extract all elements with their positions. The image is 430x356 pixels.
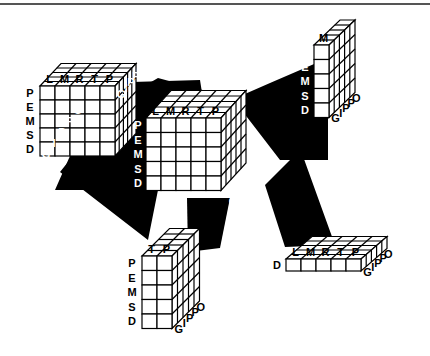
cube-main-cell (206, 147, 221, 162)
cube-top-left-cell (40, 114, 55, 128)
label-depth: O (384, 248, 393, 260)
label-depth: O (253, 151, 262, 163)
label-column: P (212, 105, 219, 117)
cube-main-cell (206, 118, 221, 133)
cube-top-left-cell (100, 86, 115, 100)
cube-bottom-left-cell (157, 256, 172, 271)
cube-top-left-cell (85, 86, 100, 100)
cube-bottom-right-cell (286, 259, 301, 271)
cube-top-left-cell (70, 128, 85, 142)
label-column: P (352, 246, 359, 258)
cube-bottom-left-cell (142, 285, 157, 300)
cube-main-cell (176, 133, 191, 148)
label-column: R (322, 246, 330, 258)
label-depth: O (352, 92, 361, 104)
cube-top-left-cell (40, 100, 55, 114)
label-depth: O (137, 64, 146, 76)
label-depth: O (196, 301, 205, 313)
cube-main-cell (206, 176, 221, 191)
cube-bottom-right-cell (346, 259, 361, 271)
cube-main-cell (161, 162, 176, 177)
label-row: S (301, 90, 308, 102)
cube-main-cell (161, 176, 176, 191)
cube-top-right-cell (314, 74, 329, 89)
cube-main (146, 91, 246, 191)
label-depth: P (241, 173, 248, 185)
label-depth: I (237, 184, 240, 196)
cube-top-left-cell (55, 100, 70, 114)
label-row: S (26, 129, 33, 141)
label-row: D (134, 177, 142, 189)
label-column: M (60, 73, 69, 85)
cube-main-cell (146, 118, 161, 133)
cube-top-right-cell (314, 103, 329, 118)
cube-main-cell (161, 147, 176, 162)
label-row: P (26, 87, 33, 99)
label-row: E (134, 134, 141, 146)
label-column: L (152, 105, 159, 117)
label-row: M (25, 115, 34, 127)
cube-top-left-cell (100, 128, 115, 142)
label-row: E (301, 61, 308, 73)
label-row: S (134, 163, 141, 175)
label-column: M (306, 246, 315, 258)
cube-top-left-cell (85, 100, 100, 114)
label-row: M (127, 286, 136, 298)
cube-main-cell (191, 118, 206, 133)
label-column: M (166, 105, 175, 117)
cube-main-cell (191, 176, 206, 191)
label-column: T (197, 105, 204, 117)
label-column: P (106, 73, 113, 85)
label-depth: G (42, 148, 51, 160)
label-row: S (128, 301, 135, 313)
label-row: P (301, 46, 308, 58)
cube-bottom-right-cell (331, 259, 346, 271)
label-depth: O (74, 104, 83, 116)
cube-top-left-cell (100, 114, 115, 128)
cube-top-left-cell (55, 142, 70, 156)
cube-diagram: LMRTPPEMSDGIPPOGIPPOLMRTPPEMSDGIPPOMPEMS… (0, 0, 430, 356)
cube-bottom-left-cell (142, 271, 157, 286)
cube-main-cell (146, 147, 161, 162)
cube-top-left-cell (85, 114, 100, 128)
cube-main-cell (146, 176, 161, 191)
cube-top-left-cell (100, 100, 115, 114)
label-row: E (26, 101, 33, 113)
cube-top-right-cell (314, 60, 329, 75)
label-depth: P (247, 162, 254, 174)
diagram-canvas: LMRTPPEMSDGIPPOGIPPOLMRTPPEMSDGIPPOMPEMS… (0, 0, 430, 356)
cube-bottom-right-cell (301, 259, 316, 271)
cube-top-left-cell (70, 142, 85, 156)
label-column: L (292, 246, 299, 258)
cube-top-left-cell (85, 142, 100, 156)
cube-main-cell (146, 162, 161, 177)
label-row: M (133, 148, 142, 160)
label-row: D (26, 143, 34, 155)
label-row: D (273, 259, 281, 271)
label-depth: G (229, 195, 238, 207)
cube-main-cell (161, 118, 176, 133)
label-column: T (337, 246, 344, 258)
cube-top-left-cell (85, 128, 100, 142)
label-row: D (128, 315, 136, 327)
cube-top-left-cell (40, 86, 55, 100)
cube-top-left-cell (55, 86, 70, 100)
label-row: M (300, 75, 309, 87)
cube-bottom-right-cell (316, 259, 331, 271)
label-column: P (163, 243, 170, 255)
cube-top-left-cell (70, 86, 85, 100)
cube-top-right-cell (314, 45, 329, 60)
cube-main-cell (176, 162, 191, 177)
cube-main-cell (206, 162, 221, 177)
label-depth: I (52, 137, 55, 149)
label-row: E (128, 272, 135, 284)
cube-main-cell (176, 176, 191, 191)
cube-bottom-left-cell (142, 300, 157, 315)
cube-main-cell (191, 133, 206, 148)
label-column: R (76, 73, 84, 85)
cube-main-cell (191, 147, 206, 162)
label-depth: P (58, 126, 65, 138)
label-row: P (128, 257, 135, 269)
cube-main-cell (146, 133, 161, 148)
label-column: L (46, 73, 53, 85)
